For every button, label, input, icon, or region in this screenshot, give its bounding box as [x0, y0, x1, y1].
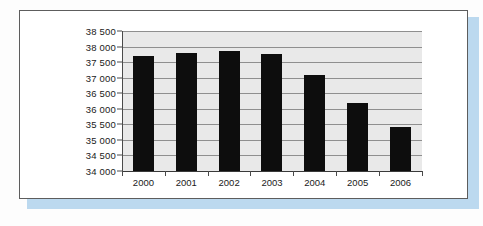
y-axis-tick-label: 36 000 — [86, 103, 116, 114]
x-axis-tick-mark — [336, 171, 337, 176]
bar-slot — [251, 31, 294, 171]
x-axis-tick-label-2001: 2001 — [165, 177, 208, 188]
bar-2002[interactable] — [219, 51, 240, 171]
bar-slot — [336, 31, 379, 171]
y-axis-tick-label: 37 000 — [86, 72, 116, 83]
x-axis-tick-label-2006: 2006 — [379, 177, 422, 188]
y-axis-labels: 38 500 38 000 37 500 37 000 36 500 36 00… — [54, 31, 116, 171]
bar-2006[interactable] — [390, 127, 411, 171]
y-axis-tick-label: 35 500 — [86, 119, 116, 130]
x-axis-tick-mark — [122, 171, 123, 176]
x-axis-tick-mark — [379, 171, 380, 176]
bar-slot — [208, 31, 251, 171]
y-axis-tick-label: 34 500 — [86, 150, 116, 161]
bar-2005[interactable] — [347, 103, 368, 171]
bar-2003[interactable] — [261, 54, 282, 171]
x-axis-labels: 2000 2001 2002 2003 2004 2005 2006 — [122, 177, 422, 188]
x-axis-tick-label-2004: 2004 — [293, 177, 336, 188]
bar-slot — [379, 31, 422, 171]
bar-slot — [293, 31, 336, 171]
bar-slot — [165, 31, 208, 171]
y-axis-tick-label: 35 000 — [86, 134, 116, 145]
bar-2001[interactable] — [176, 53, 197, 171]
figure-frame: 38 500 38 000 37 500 37 000 36 500 36 00… — [19, 10, 468, 199]
bar-2004[interactable] — [304, 75, 325, 171]
bar-series — [122, 31, 422, 171]
x-axis-tick-mark — [293, 171, 294, 176]
x-axis-tick-label-2000: 2000 — [122, 177, 165, 188]
y-axis-tick-label: 34 000 — [86, 166, 116, 177]
bar-slot — [122, 31, 165, 171]
x-axis-tick-mark — [208, 171, 209, 176]
y-axis-tick-label: 38 500 — [86, 26, 116, 37]
y-axis-tick-label: 38 000 — [86, 41, 116, 52]
x-axis-tick-mark — [165, 171, 166, 176]
x-axis-tick-label-2005: 2005 — [336, 177, 379, 188]
y-axis-tick-label: 37 500 — [86, 57, 116, 68]
bar-chart: 38 500 38 000 37 500 37 000 36 500 36 00… — [20, 11, 467, 198]
page-background: 38 500 38 000 37 500 37 000 36 500 36 00… — [0, 0, 483, 226]
x-axis-tick-label-2003: 2003 — [251, 177, 294, 188]
x-axis-tick-mark — [422, 171, 423, 176]
x-axis-tick-mark — [250, 171, 251, 176]
y-axis-tick-label: 36 500 — [86, 88, 116, 99]
x-axis-tick-label-2002: 2002 — [208, 177, 251, 188]
bar-2000[interactable] — [133, 56, 154, 171]
